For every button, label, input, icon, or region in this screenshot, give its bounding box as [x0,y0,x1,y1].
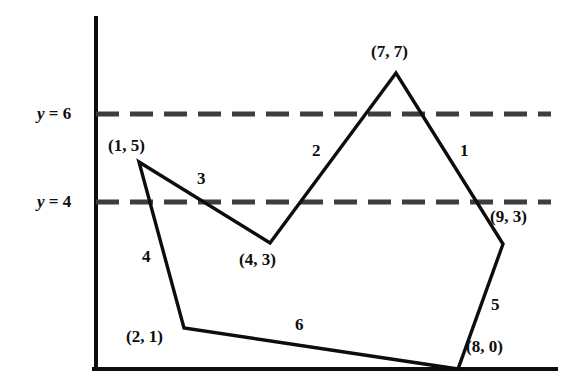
polygon-scanline-figure [0,0,573,385]
scan-line-label-y6: y = 6 [37,105,71,122]
edge-label-3: 3 [197,170,206,187]
scan-line-label-y4: y = 4 [37,193,71,210]
polygon-shape [139,73,503,369]
vertex-label-2-1: (2, 1) [126,328,163,345]
edge-label-6: 6 [295,316,304,333]
vertex-label-4-3: (4, 3) [239,251,276,268]
edge-label-1: 1 [460,142,469,159]
vertex-label-8-0: (8, 0) [466,338,503,355]
scan-line-y4-variable: y [37,192,45,211]
scan-line-y6-equation: = 6 [49,104,71,123]
scan-line-y6-variable: y [37,104,45,123]
edge-label-2: 2 [312,142,321,159]
edge-label-4: 4 [142,248,151,265]
vertex-label-7-7: (7, 7) [371,43,408,60]
vertex-label-1-5: (1, 5) [108,137,145,154]
vertex-label-9-3: (9, 3) [490,208,527,225]
scan-line-y4-equation: = 4 [49,192,71,211]
edge-label-5: 5 [491,296,500,313]
